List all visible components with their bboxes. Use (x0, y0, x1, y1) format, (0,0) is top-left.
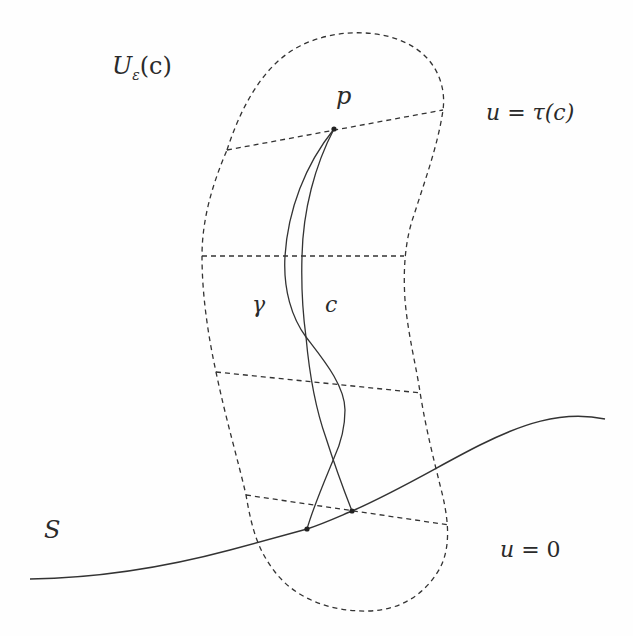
label-top-level: u = τ(c) (486, 100, 574, 125)
point-p-dot (331, 126, 336, 131)
label-bottom-level: u = 0 (500, 537, 561, 562)
label-neighborhood: Uε(c) (112, 52, 172, 83)
level-line-3 (216, 372, 421, 393)
label-p: p (336, 82, 351, 110)
label-S: S (44, 516, 60, 544)
label-c: c (325, 292, 337, 317)
diagram-canvas: Uε(c) p γ c S u = τ(c) u = 0 (0, 0, 633, 636)
curve-c (302, 129, 352, 511)
label-gamma: γ (252, 292, 266, 317)
c-endpoint-dot (349, 508, 354, 513)
diagram-svg: Uε(c) p γ c S u = τ(c) u = 0 (0, 0, 633, 636)
gamma-endpoint-dot (304, 526, 309, 531)
neighborhood-boundary (202, 33, 448, 611)
